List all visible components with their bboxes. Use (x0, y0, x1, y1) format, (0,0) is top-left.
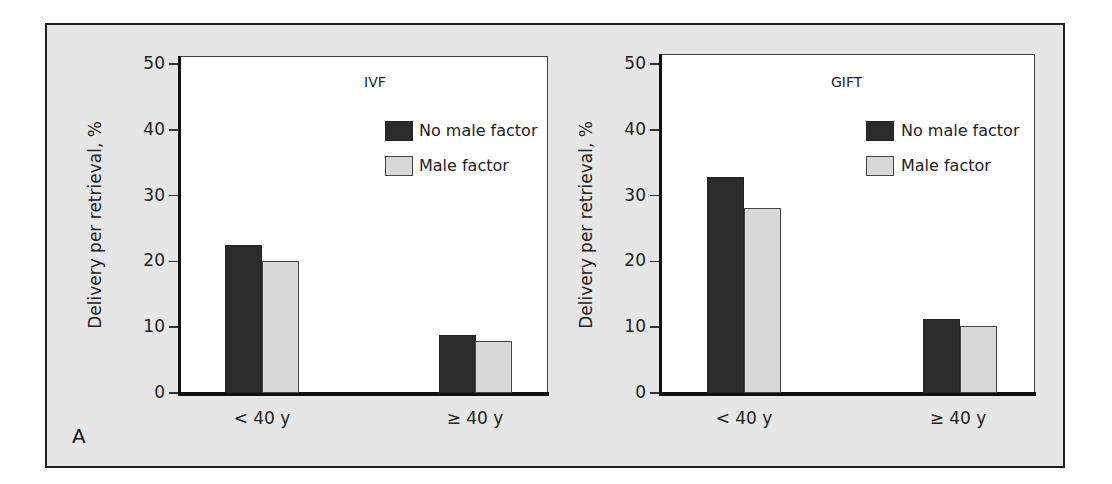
y-tick (169, 63, 178, 65)
y-tick (650, 129, 659, 131)
y-tick (169, 261, 178, 263)
y-tick-label: 10 (606, 317, 646, 335)
bar-no-male-factor (707, 177, 744, 393)
bar-no-male-factor (923, 319, 960, 393)
bar-male-factor (262, 261, 299, 393)
y-tick-label: 20 (125, 251, 165, 269)
y-tick (650, 261, 659, 263)
legend-label-no-male-factor: No male factor (901, 121, 1019, 141)
y-tick-label: 40 (606, 120, 646, 138)
y-axis (659, 54, 662, 396)
legend-swatch-no-male-factor (866, 121, 894, 141)
bar-male-factor (960, 326, 997, 393)
x-tick-label: ≥ 40 y (908, 408, 1008, 428)
legend-swatch-no-male-factor (385, 121, 413, 141)
y-tick (650, 63, 659, 65)
panel-title: GIFT (831, 74, 862, 90)
panel-letter: A (72, 424, 86, 448)
bar-male-factor (475, 341, 512, 393)
y-tick-label: 50 (606, 54, 646, 72)
x-tick-label: < 40 y (212, 408, 312, 428)
x-tick-label: ≥ 40 y (425, 408, 525, 428)
y-tick-label: 20 (606, 251, 646, 269)
legend-label-male-factor: Male factor (901, 156, 991, 176)
legend-label-no-male-factor: No male factor (419, 121, 537, 141)
x-tick-label: < 40 y (694, 408, 794, 428)
y-axis-label: Delivery per retrieval, % (85, 120, 105, 330)
y-tick (169, 326, 178, 328)
bar-no-male-factor (225, 245, 262, 393)
panel-title: IVF (364, 74, 386, 90)
y-tick (650, 326, 659, 328)
y-tick-label: 40 (125, 120, 165, 138)
y-tick-label: 10 (125, 317, 165, 335)
y-tick-label: 50 (125, 54, 165, 72)
y-tick (169, 195, 178, 197)
legend-swatch-male-factor (385, 156, 413, 176)
y-tick (650, 392, 659, 394)
bar-no-male-factor (439, 335, 476, 393)
y-tick (169, 392, 178, 394)
y-tick (169, 129, 178, 131)
y-tick (650, 195, 659, 197)
legend-label-male-factor: Male factor (419, 156, 509, 176)
bar-male-factor (744, 208, 781, 393)
y-axis (178, 56, 181, 396)
y-axis-label: Delivery per retrieval, % (576, 120, 596, 330)
y-tick-label: 30 (606, 186, 646, 204)
legend-swatch-male-factor (866, 156, 894, 176)
y-tick-label: 0 (606, 383, 646, 401)
y-tick-label: 0 (125, 383, 165, 401)
y-tick-label: 30 (125, 186, 165, 204)
